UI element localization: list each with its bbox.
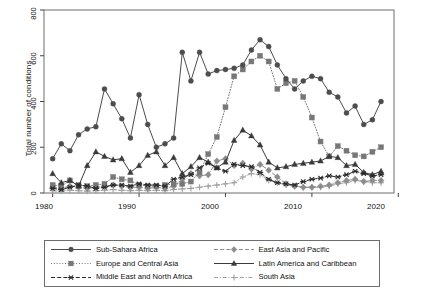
legend-item-sub-sahara-africa: Sub-Sahara Africa <box>50 244 213 255</box>
series-sub-sahara-africa <box>50 37 383 161</box>
legend-key-dashdot-plus <box>213 272 255 283</box>
legend-key-solid-circle <box>50 244 92 255</box>
chart-figure: Total number of conditions 0 200 400 600… <box>0 0 425 295</box>
legend-label-east-asia-and-pacific: East Asia and Pacific <box>259 246 330 254</box>
legend-item-latin-america-and-caribbean: Latin America and Caribbean <box>213 258 376 269</box>
legend-key-dashed-diamond <box>213 244 255 255</box>
legend-key-dotted-square <box>50 258 92 269</box>
series-south-asia <box>50 171 384 195</box>
plot-area <box>0 0 425 230</box>
chart-legend: Sub-Sahara Africa East Asia and Pacific … <box>44 240 380 287</box>
legend-label-europe-and-central-asia: Europe and Central Asia <box>96 260 178 268</box>
legend-item-europe-and-central-asia: Europe and Central Asia <box>50 258 213 269</box>
legend-label-sub-sahara-africa: Sub-Sahara Africa <box>96 246 158 254</box>
legend-label-latin-america-and-caribbean: Latin America and Caribbean <box>259 260 357 268</box>
legend-item-east-asia-and-pacific: East Asia and Pacific <box>213 244 376 255</box>
legend-label-south-asia: South Asia <box>259 273 295 281</box>
legend-item-middle-east-and-north-africa: Middle East and North Africa <box>50 272 213 283</box>
legend-key-dashed-star <box>50 272 92 283</box>
legend-item-south-asia: South Asia <box>213 272 376 283</box>
legend-key-solid-triangle <box>213 258 255 269</box>
legend-label-middle-east-and-north-africa: Middle East and North Africa <box>96 273 192 281</box>
